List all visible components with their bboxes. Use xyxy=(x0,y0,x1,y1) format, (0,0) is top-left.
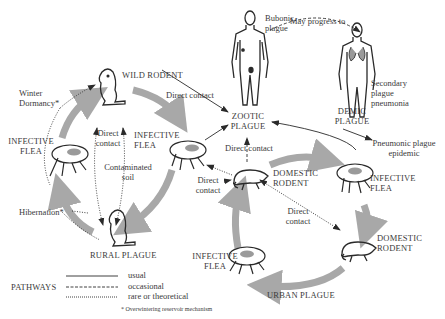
winter-dormancy-label-2: Dormancy* xyxy=(19,99,59,109)
legend-title: PATHWAYS xyxy=(11,283,56,293)
domestic-rodent-top-label-2: RODENT xyxy=(273,179,309,189)
domestic-rodent-right-label-2: RODENT xyxy=(377,244,413,254)
legend-footnote: * Overwintering reservoir mechanism xyxy=(121,305,212,315)
pneumonic-epidemic-label-2: epidemic xyxy=(366,149,442,159)
plague-cycle-diagram: WILD RODENT Winter Dormancy* INFECTIVE F… xyxy=(0,0,445,319)
infective-flea-bottom-label-2: FLEA xyxy=(190,262,240,272)
wild-rodent-label: WILD RODENT xyxy=(122,71,183,81)
domestic-rodent-top-icon xyxy=(234,170,268,190)
hibernation-label: Hibernation* xyxy=(19,208,64,218)
human-figure-bubonic xyxy=(232,11,268,105)
direct-contact-urban-label-2: contact xyxy=(280,217,316,227)
demic-plague-label-2: PLAGUE xyxy=(332,117,372,127)
bubonic-plague-label-2: plague xyxy=(265,24,288,34)
secondary-pneumonia-label-3: pneumonia xyxy=(371,99,409,109)
legend-lines xyxy=(66,276,118,297)
may-progress-to-label: May progress to xyxy=(290,17,345,27)
domestic-rodent-right-icon xyxy=(342,242,376,262)
zootic-plague-label-2: PLAGUE xyxy=(228,122,268,132)
human-figure-pneumonic xyxy=(339,23,375,117)
direct-contact-top-label: Direct contact xyxy=(166,91,214,101)
direct-contact-zootic-label: Direct contact xyxy=(225,144,273,154)
infective-flea-mid-label-2: FLEA xyxy=(134,141,156,151)
legend-rare-label: rare or theoretical xyxy=(128,292,188,302)
rural-plague-label: RURAL PLAGUE xyxy=(90,251,157,261)
contaminated-soil-label-2: soil xyxy=(98,173,158,183)
legend-usual-label: usual xyxy=(128,271,146,281)
direct-contact-left-label-2: contact xyxy=(190,186,226,196)
flea-mid-icon xyxy=(170,141,206,170)
infective-flea-left-label-2: FLEA xyxy=(6,147,56,157)
direct-contact-wild-label-2: contact xyxy=(88,139,128,149)
infective-flea-right-label-2: FLEA xyxy=(370,184,392,194)
flea-right-icon xyxy=(337,164,373,193)
urban-plague-label: URBAN PLAGUE xyxy=(267,291,335,301)
